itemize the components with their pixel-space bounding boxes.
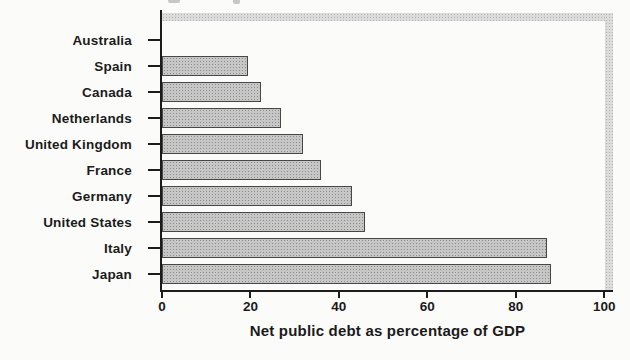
bar-spain bbox=[162, 56, 248, 76]
x-axis-ticks: 020406080100 bbox=[162, 292, 613, 318]
chart-row: Germany bbox=[0, 183, 613, 209]
x-axis-tick bbox=[249, 292, 251, 298]
bar-track bbox=[162, 108, 613, 128]
cropped-title-remnant bbox=[233, 0, 240, 4]
chart-row: France bbox=[0, 157, 613, 183]
category-label: Australia bbox=[0, 33, 148, 48]
bar-italy bbox=[162, 238, 547, 258]
chart-row: Spain bbox=[0, 53, 613, 79]
chart-row: United States bbox=[0, 209, 613, 235]
x-axis-tick bbox=[515, 292, 517, 298]
x-tick-label: 80 bbox=[508, 299, 523, 314]
bar-track bbox=[162, 212, 613, 232]
bar-canada bbox=[162, 82, 261, 102]
y-axis-line bbox=[160, 10, 162, 292]
x-axis-tick bbox=[426, 292, 428, 298]
x-tick-label: 20 bbox=[243, 299, 258, 314]
bar-united-kingdom bbox=[162, 134, 303, 154]
category-label: Canada bbox=[0, 85, 148, 100]
x-axis-tick bbox=[161, 292, 163, 298]
bar-track bbox=[162, 186, 613, 206]
bar-japan bbox=[162, 264, 551, 284]
bar-track bbox=[162, 30, 613, 50]
category-label: Italy bbox=[0, 241, 148, 256]
bar-germany bbox=[162, 186, 352, 206]
category-label: France bbox=[0, 163, 148, 178]
chart-row: Japan bbox=[0, 261, 613, 287]
chart-rows: AustraliaSpainCanadaNetherlandsUnited Ki… bbox=[0, 27, 613, 287]
x-tick-label: 60 bbox=[420, 299, 435, 314]
x-axis-tick bbox=[338, 292, 340, 298]
bar-track bbox=[162, 160, 613, 180]
bar-france bbox=[162, 160, 321, 180]
category-label: Netherlands bbox=[0, 111, 148, 126]
plot-frame-top-border bbox=[162, 13, 613, 21]
bar-netherlands bbox=[162, 108, 281, 128]
category-label: Germany bbox=[0, 189, 148, 204]
bar-united-states bbox=[162, 212, 365, 232]
category-label: Spain bbox=[0, 59, 148, 74]
x-tick-label: 100 bbox=[593, 299, 616, 314]
x-tick-label: 40 bbox=[331, 299, 346, 314]
chart-row: Australia bbox=[0, 27, 613, 53]
cropped-title-remnant bbox=[168, 0, 180, 3]
chart-row: Netherlands bbox=[0, 105, 613, 131]
chart-row: United Kingdom bbox=[0, 131, 613, 157]
category-label: United Kingdom bbox=[0, 137, 148, 152]
category-label: United States bbox=[0, 215, 148, 230]
bar-track bbox=[162, 56, 613, 76]
bar-track bbox=[162, 238, 613, 258]
x-axis-title: Net public debt as percentage of GDP bbox=[162, 322, 613, 339]
category-label: Japan bbox=[0, 267, 148, 282]
bar-track bbox=[162, 264, 613, 284]
bar-chart-figure: AustraliaSpainCanadaNetherlandsUnited Ki… bbox=[0, 0, 630, 360]
bar-track bbox=[162, 82, 613, 102]
x-tick-label: 0 bbox=[158, 299, 166, 314]
chart-row: Canada bbox=[0, 79, 613, 105]
chart-row: Italy bbox=[0, 235, 613, 261]
bar-track bbox=[162, 134, 613, 154]
x-axis-tick bbox=[603, 292, 605, 298]
